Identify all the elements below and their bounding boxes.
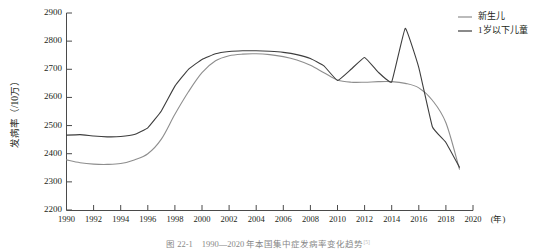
series-line-infant [67,28,460,167]
y-tick-label: 2600 [44,91,63,101]
x-axis: 1990 1992 1994 1996 1998 2000 2002 2004 … [58,205,505,224]
figure-caption: 图 22-1 1990—2020 年本国集中症发病率变化趋势[5] [166,239,370,249]
caption-text: 图 22-1 1990—2020 年本国集中症发病率变化趋势[5] [166,239,370,249]
x-tick-label: 1998 [166,214,183,224]
y-axis-tick-labels: 2900 2800 2700 2600 2500 2400 2300 2200 [44,7,63,214]
y-axis-title: 发病率（/10万） [9,76,20,148]
x-tick-label: 1992 [85,214,102,224]
y-tick-label: 2800 [44,35,63,45]
legend-item-infant[interactable]: 1岁以下儿童 [458,24,528,35]
y-axis: 2900 2800 2700 2600 2500 2400 2300 2200 … [9,7,72,214]
x-tick-label: 2006 [275,214,292,224]
plot-area [67,28,460,169]
x-tick-label: 1996 [139,214,156,224]
x-tick-label: 1994 [112,214,130,224]
x-axis-tick-labels: 1990 1992 1994 1996 1998 2000 2002 2004 … [58,214,482,224]
x-tick-label: 2004 [248,214,266,224]
legend: 新生儿 1岁以下儿童 [458,10,528,35]
x-tick-label: 1990 [58,214,75,224]
legend-item-newborn[interactable]: 新生儿 [458,10,505,21]
series-line-newborn [67,54,460,169]
y-axis-ticks [67,13,73,210]
y-tick-label: 2700 [44,63,63,73]
legend-label: 新生儿 [478,10,505,21]
x-axis-title: (年) [491,214,506,224]
y-tick-label: 2500 [44,120,63,130]
y-tick-label: 2900 [44,7,63,17]
figure-container: 2900 2800 2700 2600 2500 2400 2300 2200 … [0,0,542,251]
legend-label: 1岁以下儿童 [478,24,528,35]
x-tick-label: 2010 [329,214,346,224]
x-tick-label: 2016 [410,214,427,224]
x-tick-label: 2002 [221,214,238,224]
caption-main: 图 22-1 1990—2020 年本国集中症发病率变化趋势 [166,239,363,249]
x-tick-label: 2018 [437,214,454,224]
x-tick-label: 2020 [465,214,482,224]
y-tick-label: 2400 [44,148,63,158]
incidence-trend-chart: 2900 2800 2700 2600 2500 2400 2300 2200 … [0,0,542,251]
x-tick-label: 2012 [356,214,373,224]
x-tick-label: 2008 [302,214,319,224]
x-tick-label: 2000 [194,214,211,224]
x-tick-label: 2014 [383,214,401,224]
caption-reference: [5] [363,239,370,245]
y-tick-label: 2200 [44,204,63,214]
x-axis-ticks [67,205,474,211]
y-tick-label: 2300 [44,176,63,186]
